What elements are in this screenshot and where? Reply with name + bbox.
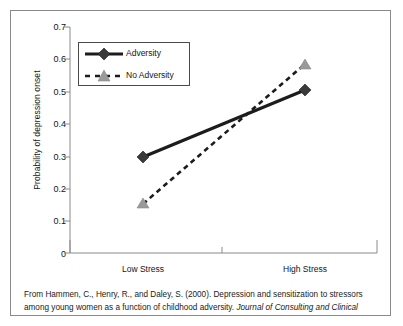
figure-container: Probability of depression onset 0.7 0.6 …: [0, 0, 403, 326]
chart-svg: [0, 0, 403, 326]
legend-swatch-solid-diamond-icon: [83, 43, 125, 65]
caption-line-1: From Hammen, C., Henry, R., and Daley, S…: [24, 289, 380, 302]
legend-key-adversity: [83, 43, 125, 65]
legend-swatch-dashed-triangle-icon: [83, 65, 125, 87]
chart-legend: Adversity No Adversity: [78, 42, 190, 86]
caption-journal-name: Journal of Consulting and Clinical: [236, 303, 358, 312]
data-point-adversity-low-stress: [137, 151, 149, 163]
legend-item-no-adversity: No Adversity: [79, 65, 191, 87]
series-line-adversity: [143, 90, 305, 157]
legend-key-no-adversity: [83, 65, 125, 87]
caption-line-2-plain: among young women as a function of child…: [24, 303, 236, 312]
caption-line-2: among young women as a function of child…: [24, 302, 380, 315]
legend-label-adversity: Adversity: [126, 48, 161, 58]
data-point-adversity-high-stress: [299, 84, 311, 96]
legend-item-adversity: Adversity: [79, 43, 191, 65]
legend-label-no-adversity: No Adversity: [126, 70, 174, 80]
plot-area: Probability of depression onset 0.7 0.6 …: [0, 0, 403, 326]
data-point-no-adversity-high-stress: [299, 59, 311, 69]
figure-caption: From Hammen, C., Henry, R., and Daley, S…: [24, 289, 380, 314]
data-point-no-adversity-low-stress: [137, 198, 149, 208]
